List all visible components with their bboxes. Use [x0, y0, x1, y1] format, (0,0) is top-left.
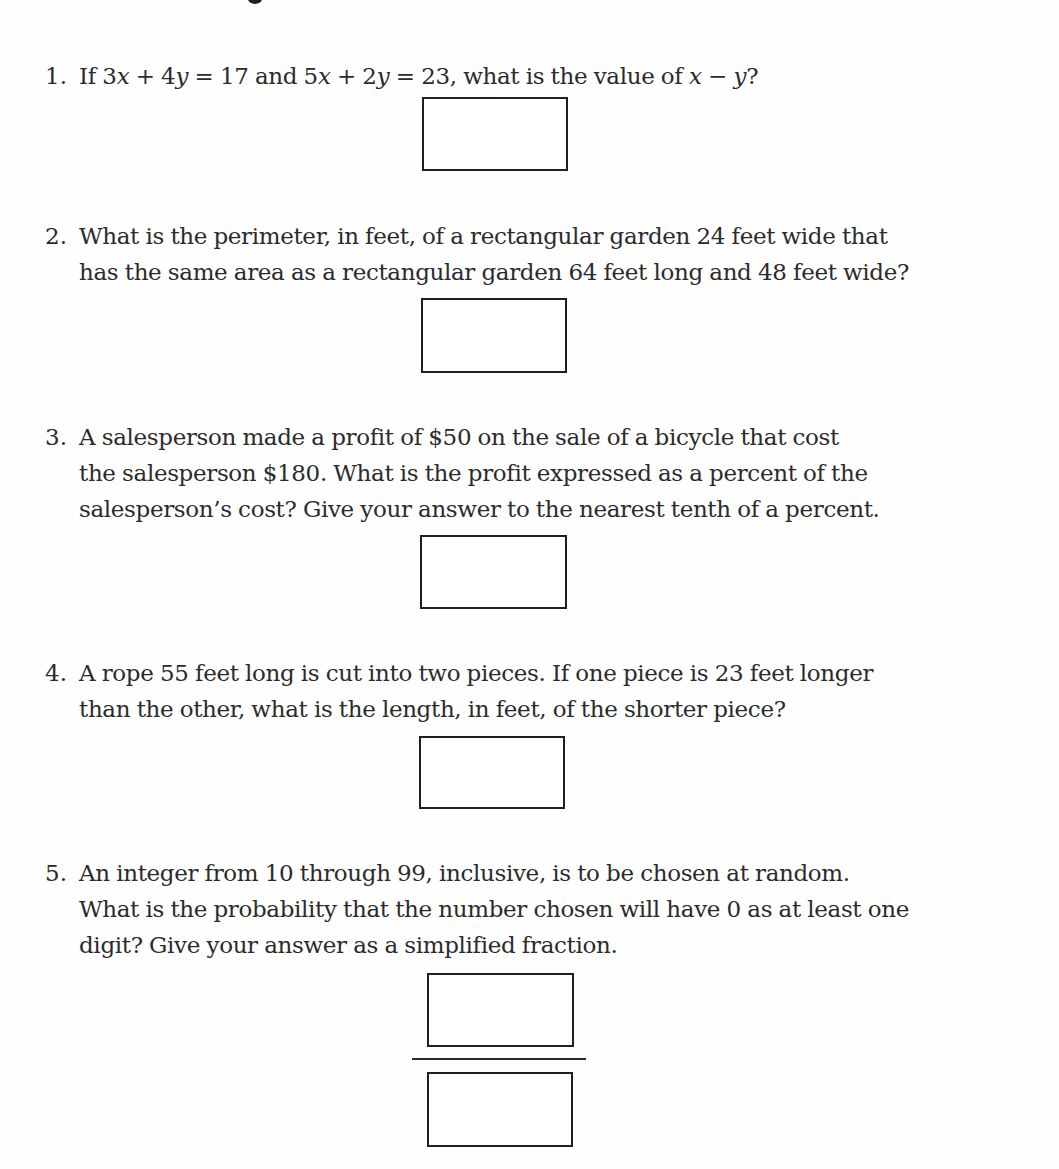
- answer-box-q1[interactable]: [422, 97, 568, 171]
- math-variable: x: [689, 63, 702, 89]
- text-run: the salesperson $180. What is the profit…: [79, 460, 868, 486]
- fraction-bar: [412, 1058, 586, 1060]
- answer-box-q2[interactable]: [421, 298, 567, 373]
- question-line: If 3x + 4y = 17 and 5x + 2y = 23, what i…: [79, 58, 1054, 94]
- question-line: What is the probability that the number …: [79, 891, 1054, 927]
- question-number: 3.: [45, 419, 67, 455]
- text-run: −: [702, 63, 734, 89]
- answer-box-q5-denominator[interactable]: [427, 1072, 573, 1147]
- math-variable: x: [117, 63, 130, 89]
- text-run: A salesperson made a profit of $50 on th…: [79, 424, 839, 450]
- text-run: An integer from 10 through 99, inclusive…: [79, 860, 850, 886]
- math-variable: y: [377, 63, 390, 89]
- question-line: digit? Give your answer as a simplified …: [79, 927, 1054, 963]
- answer-box-q5-numerator[interactable]: [427, 973, 574, 1047]
- text-run: A rope 55 feet long is cut into two piec…: [79, 660, 873, 686]
- question-line: than the other, what is the length, in f…: [79, 691, 1054, 727]
- text-run: salesperson’s cost? Give your answer to …: [79, 496, 880, 522]
- question-text: What is the perimeter, in feet, of a rec…: [79, 218, 1054, 290]
- question-text: A rope 55 feet long is cut into two piec…: [79, 655, 1054, 727]
- text-run: What is the probability that the number …: [79, 896, 909, 922]
- text-run: + 4: [129, 63, 175, 89]
- question-text: A salesperson made a profit of $50 on th…: [79, 419, 1054, 527]
- question-number: 2.: [45, 218, 67, 254]
- text-run: than the other, what is the length, in f…: [79, 696, 786, 722]
- math-variable: x: [318, 63, 331, 89]
- question-text: An integer from 10 through 99, inclusive…: [79, 855, 1054, 963]
- question-line: has the same area as a rectangular garde…: [79, 254, 1054, 290]
- answer-box-q4[interactable]: [419, 736, 565, 809]
- question-line: the salesperson $180. What is the profit…: [79, 455, 1054, 491]
- question-line: salesperson’s cost? Give your answer to …: [79, 491, 1054, 527]
- math-variable: y: [733, 63, 746, 89]
- question-number: 1.: [45, 58, 67, 94]
- text-run: What is the perimeter, in feet, of a rec…: [79, 223, 888, 249]
- question-line: A rope 55 feet long is cut into two piec…: [79, 655, 1054, 691]
- cut-off-heading-fragment: [248, 0, 262, 4]
- math-variable: y: [175, 63, 188, 89]
- text-run: = 23, what is the value of: [389, 63, 689, 89]
- worksheet-page: 1. If 3x + 4y = 17 and 5x + 2y = 23, wha…: [0, 0, 1059, 1169]
- text-run: = 17 and 5: [188, 63, 318, 89]
- question-text: If 3x + 4y = 17 and 5x + 2y = 23, what i…: [79, 58, 1054, 94]
- text-run: If 3: [79, 63, 117, 89]
- question-number: 4.: [45, 655, 67, 691]
- text-run: + 2: [331, 63, 377, 89]
- text-run: ?: [746, 63, 758, 89]
- question-number: 5.: [45, 855, 67, 891]
- text-run: has the same area as a rectangular garde…: [79, 259, 909, 285]
- text-run: digit? Give your answer as a simplified …: [79, 932, 617, 958]
- question-line: An integer from 10 through 99, inclusive…: [79, 855, 1054, 891]
- question-line: A salesperson made a profit of $50 on th…: [79, 419, 1054, 455]
- question-line: What is the perimeter, in feet, of a rec…: [79, 218, 1054, 254]
- answer-box-q3[interactable]: [420, 535, 567, 609]
